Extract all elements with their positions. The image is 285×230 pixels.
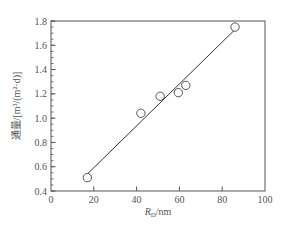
y-tick-label: 0.8 [35,137,48,148]
y-tick-label: 1.4 [35,64,48,75]
x-tick-label: 60 [174,194,184,205]
y-tick-label: 0.6 [35,161,48,172]
plot-frame [51,21,265,191]
x-tick-label: 40 [132,194,142,205]
fit-line [87,30,235,175]
y-tick-label: 0.4 [35,186,48,197]
chart: 0.40.60.81.01.21.41.61.8 020406080100 RD… [0,0,285,230]
x-tick-label: 80 [217,194,227,205]
y-tick-label: 1.0 [35,113,48,124]
data-point-marker [174,88,182,96]
regression-line [87,30,235,175]
x-axis-ticks: 020406080100 [49,187,273,206]
x-axis-label: RD/nm [144,206,172,219]
y-axis-ticks: 0.40.60.81.01.21.41.61.8 [35,16,56,197]
x-tick-label: 100 [258,194,273,205]
data-point-marker [182,81,190,89]
data-point-marker [137,109,145,117]
x-tick-label: 0 [49,194,54,205]
y-axis-label: 通量/[m³/(m²·d)] [11,72,23,141]
data-point-marker [231,23,239,31]
x-tick-label: 20 [89,194,99,205]
data-point-marker [156,92,164,100]
y-tick-label: 1.8 [35,16,48,27]
data-point-marker [83,173,91,181]
y-tick-label: 1.6 [35,40,48,51]
axes-box [51,21,265,191]
y-tick-label: 1.2 [35,88,48,99]
